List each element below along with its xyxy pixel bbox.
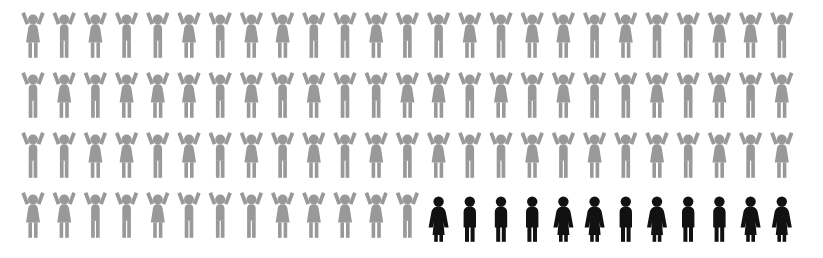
female-arms-up-icon [177,72,200,118]
male-arms-down-icon [464,196,476,241]
female-arms-down-icon [741,196,761,241]
female-arms-up-icon [146,72,169,118]
female-arms-up-icon [645,132,668,178]
male-arms-up-icon [271,132,294,178]
female-arms-up-icon [770,132,793,178]
male-arms-down-icon [495,196,507,241]
male-arms-up-icon [240,192,263,238]
male-arms-up-icon [84,72,107,118]
male-arms-down-icon [526,196,538,241]
female-arms-up-icon [84,12,107,58]
male-arms-up-icon [53,12,76,58]
female-arms-up-icon [302,192,325,238]
female-arms-up-icon [240,132,263,178]
male-arms-up-icon [209,192,232,238]
female-arms-up-icon [708,12,731,58]
female-arms-up-icon [177,12,200,58]
male-arms-up-icon [209,12,232,58]
female-arms-up-icon [614,12,637,58]
male-arms-up-icon [489,132,512,178]
female-arms-up-icon [489,72,512,118]
female-arms-up-icon [521,12,544,58]
male-arms-up-icon [396,132,419,178]
female-arms-up-icon [552,12,575,58]
female-arms-up-icon [365,132,388,178]
male-arms-up-icon [739,132,762,178]
male-arms-up-icon [583,12,606,58]
male-arms-up-icon [146,12,169,58]
male-arms-up-icon [583,72,606,118]
male-arms-up-icon [209,132,232,178]
female-arms-up-icon [271,12,294,58]
female-arms-up-icon [53,72,76,118]
male-arms-up-icon [458,132,481,178]
female-arms-up-icon [302,72,325,118]
male-arms-down-icon [682,196,694,241]
male-arms-up-icon [396,192,419,238]
female-arms-up-icon [458,12,481,58]
male-arms-up-icon [177,192,200,238]
male-arms-up-icon [739,72,762,118]
female-arms-up-icon [739,12,762,58]
male-arms-up-icon [396,12,419,58]
male-arms-up-icon [21,132,44,178]
male-arms-up-icon [677,132,700,178]
female-arms-up-icon [770,72,793,118]
female-arms-up-icon [271,192,294,238]
male-arms-up-icon [333,132,356,178]
pictogram-chart [0,0,823,258]
male-arms-up-icon [302,12,325,58]
female-arms-up-icon [21,12,44,58]
male-arms-up-icon [677,12,700,58]
male-arms-up-icon [521,72,544,118]
male-arms-up-icon [146,132,169,178]
male-arms-up-icon [271,72,294,118]
male-arms-up-icon [53,132,76,178]
female-arms-up-icon [365,192,388,238]
female-arms-up-icon [53,192,76,238]
female-arms-up-icon [396,72,419,118]
male-arms-up-icon [770,12,793,58]
male-arms-up-icon [614,72,637,118]
male-arms-up-icon [115,12,138,58]
female-arms-up-icon [552,72,575,118]
female-arms-up-icon [708,132,731,178]
male-arms-up-icon [458,72,481,118]
male-arms-up-icon [489,12,512,58]
female-arms-up-icon [427,72,450,118]
female-arms-up-icon [240,72,263,118]
male-arms-up-icon [115,192,138,238]
female-arms-down-icon [647,196,667,241]
male-arms-down-icon [713,196,725,241]
female-arms-down-icon [772,196,792,241]
female-arms-up-icon [146,192,169,238]
male-arms-up-icon [365,72,388,118]
female-arms-up-icon [333,192,356,238]
male-arms-up-icon [427,12,450,58]
male-arms-up-icon [209,72,232,118]
female-arms-up-icon [115,72,138,118]
male-arms-down-icon [620,196,632,241]
female-arms-up-icon [84,132,107,178]
female-arms-down-icon [585,196,605,241]
female-arms-down-icon [553,196,573,241]
female-arms-up-icon [583,132,606,178]
female-arms-up-icon [240,12,263,58]
female-arms-up-icon [645,72,668,118]
female-arms-up-icon [427,132,450,178]
male-arms-up-icon [552,132,575,178]
female-arms-up-icon [302,132,325,178]
female-arms-up-icon [708,72,731,118]
male-arms-up-icon [21,72,44,118]
male-arms-up-icon [84,192,107,238]
female-arms-up-icon [177,132,200,178]
female-arms-up-icon [365,12,388,58]
female-arms-up-icon [21,192,44,238]
female-arms-up-icon [115,132,138,178]
male-arms-up-icon [333,12,356,58]
male-arms-up-icon [645,12,668,58]
male-arms-up-icon [614,132,637,178]
female-arms-up-icon [521,132,544,178]
male-arms-up-icon [677,72,700,118]
pictogram-figure-grid [0,0,823,258]
